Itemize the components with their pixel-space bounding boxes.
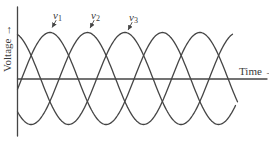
v2-label-sub: 2 [96, 14, 100, 23]
waveform-chart: Voltage→ Time→ v1 v2 v3 [0, 0, 269, 143]
voltage-axis-label: Voltage→ [1, 25, 13, 72]
v3-pointer-arrow [128, 23, 132, 30]
right-arrow-icon: → [265, 65, 269, 77]
time-axis-label: Time→ [239, 65, 269, 77]
v1-label-group: v1 [52, 9, 62, 27]
v1-pointer-arrow [52, 21, 56, 28]
three-phase-waveform-figure: Voltage→ Time→ v1 v2 v3 [0, 0, 269, 143]
v3-label: v3 [129, 11, 138, 25]
v2-pointer-arrow [90, 21, 94, 28]
v3-label-sub: 3 [134, 16, 138, 25]
voltage-axis-label-text: Voltage [1, 38, 13, 72]
v1-label-sub: 1 [58, 14, 62, 23]
v2-label-group: v2 [90, 9, 100, 28]
up-arrow-icon: → [1, 25, 13, 36]
time-axis-label-text: Time [239, 65, 262, 77]
v3-label-group: v3 [128, 11, 138, 30]
v1-label: v1 [53, 9, 62, 23]
v2-label: v2 [91, 9, 100, 23]
